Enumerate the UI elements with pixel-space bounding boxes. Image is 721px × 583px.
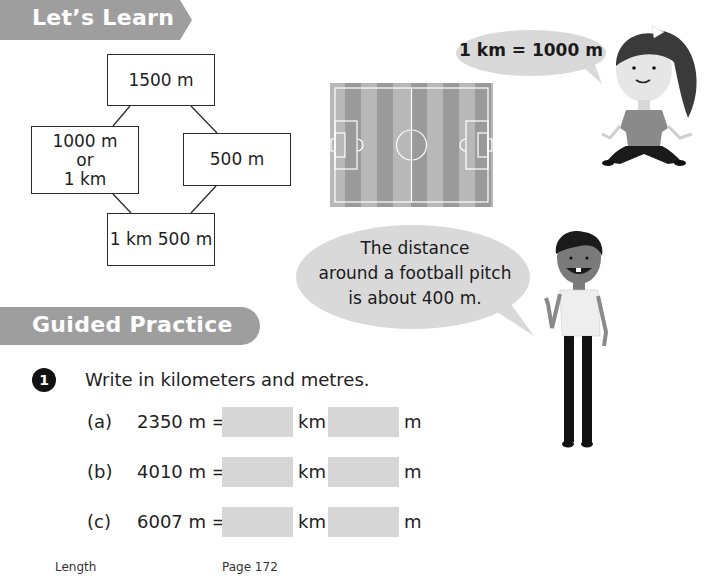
footer-page-number: Page 172 — [222, 560, 278, 574]
boy-speech-text: The distance around a football pitch is … — [300, 236, 530, 311]
diagram-box-1000m: 1000 m or 1 km — [31, 126, 139, 194]
boy-illustration — [540, 228, 620, 450]
diagram-left-line3: 1 km — [52, 170, 117, 189]
guided-practice-banner: Guided Practice — [0, 307, 260, 345]
diagram-box-1500m: 1500 m — [107, 54, 215, 106]
boy-speech-line2: around a football pitch — [300, 261, 530, 286]
m-unit-label: m — [404, 411, 422, 432]
diagram-box-right-text: 500 m — [210, 150, 264, 169]
guided-practice-title: Guided Practice — [32, 312, 233, 337]
row-expression: 6007 m = — [137, 511, 227, 532]
m-unit-label: m — [404, 511, 422, 532]
diagram-box-top-text: 1500 m — [128, 71, 193, 90]
girl-speech-text: 1 km = 1000 m — [456, 40, 606, 60]
km-unit-label: km — [298, 461, 326, 482]
km-answer-input[interactable] — [222, 507, 293, 537]
km-unit-label: km — [298, 411, 326, 432]
football-pitch-illustration — [330, 83, 493, 207]
m-answer-input[interactable] — [328, 457, 399, 487]
km-answer-input[interactable] — [222, 407, 293, 437]
m-answer-input[interactable] — [328, 507, 399, 537]
diagram-box-500m: 500 m — [183, 133, 291, 186]
question-row-c: (c) 6007 m = km m — [0, 507, 440, 537]
question-row-b: (b) 4010 m = km m — [0, 457, 440, 487]
row-label: (b) — [87, 461, 112, 482]
km-unit-label: km — [298, 511, 326, 532]
diagram-box-bottom-text: 1 km 500 m — [110, 230, 212, 249]
row-expression: 4010 m = — [137, 461, 227, 482]
boy-speech-line1: The distance — [300, 236, 530, 261]
question-instruction: Write in kilometers and metres. — [85, 369, 369, 390]
question-number: 1 — [39, 372, 49, 388]
girl-illustration — [596, 22, 706, 170]
m-unit-label: m — [404, 461, 422, 482]
km-answer-input[interactable] — [222, 457, 293, 487]
footer-section-label: Length — [55, 560, 96, 574]
question-row-a: (a) 2350 m = km m — [0, 407, 440, 437]
row-label: (c) — [87, 511, 111, 532]
diagram-left-line1: 1000 m — [52, 132, 117, 151]
diagram-box-1km-500m: 1 km 500 m — [107, 213, 215, 266]
question-number-badge: 1 — [32, 368, 56, 392]
row-expression: 2350 m = — [137, 411, 227, 432]
diagram-left-line2: or — [52, 151, 117, 170]
m-answer-input[interactable] — [328, 407, 399, 437]
row-label: (a) — [87, 411, 112, 432]
boy-speech-line3: is about 400 m. — [300, 286, 530, 311]
